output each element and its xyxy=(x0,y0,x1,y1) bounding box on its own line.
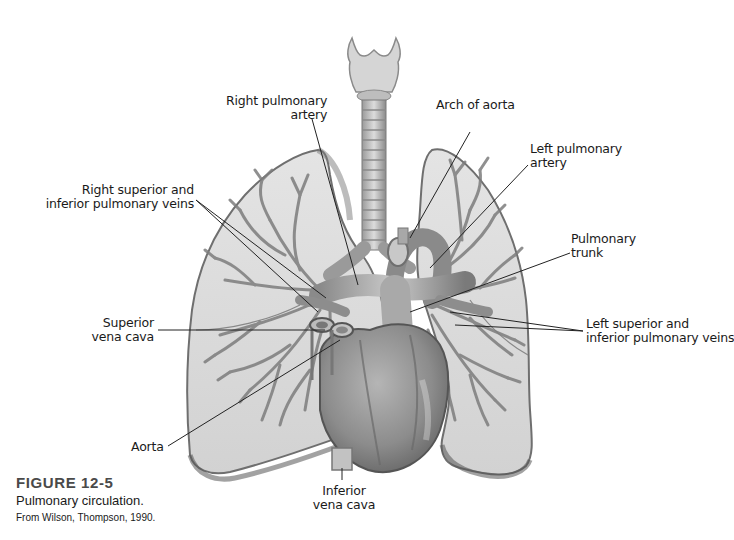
label-line: artery xyxy=(530,156,622,170)
figure-caption: FIGURE 12-5 Pulmonary circulation. From … xyxy=(16,474,155,523)
label-line: inferior pulmonary veins xyxy=(586,331,734,345)
label-line: vena cava xyxy=(310,498,378,512)
label-line: Right pulmonary xyxy=(226,94,327,108)
label-right-pulmonary-veins: Right superior and inferior pulmonary ve… xyxy=(40,183,194,211)
label-line: Aorta xyxy=(131,440,164,454)
label-line: Left pulmonary xyxy=(530,142,622,156)
label-arch-of-aorta: Arch of aorta xyxy=(436,98,515,112)
label-line: Left superior and xyxy=(586,317,734,331)
label-right-pulmonary-artery: Right pulmonary artery xyxy=(226,94,327,122)
label-left-pulmonary-artery: Left pulmonary artery xyxy=(530,142,622,170)
label-line: Right superior and xyxy=(40,183,194,197)
figure-number: FIGURE 12-5 xyxy=(16,474,155,491)
label-line: Superior xyxy=(90,316,154,330)
label-line: Inferior xyxy=(310,484,378,498)
label-line: inferior pulmonary veins xyxy=(40,197,194,211)
label-line: artery xyxy=(226,108,327,122)
label-line: Pulmonary xyxy=(571,232,636,246)
label-line: vena cava xyxy=(90,330,154,344)
label-line: trunk xyxy=(571,246,636,260)
label-inferior-vena-cava: Inferior vena cava xyxy=(310,484,378,512)
figure-title: Pulmonary circulation. xyxy=(16,493,155,508)
figure-credit: From Wilson, Thompson, 1990. xyxy=(16,512,155,523)
label-aorta: Aorta xyxy=(131,440,164,454)
larynx xyxy=(348,38,400,102)
label-line: Arch of aorta xyxy=(436,98,515,112)
label-superior-vena-cava: Superior vena cava xyxy=(90,316,154,344)
label-pulmonary-trunk: Pulmonary trunk xyxy=(571,232,636,260)
label-left-pulmonary-veins: Left superior and inferior pulmonary vei… xyxy=(586,317,734,345)
